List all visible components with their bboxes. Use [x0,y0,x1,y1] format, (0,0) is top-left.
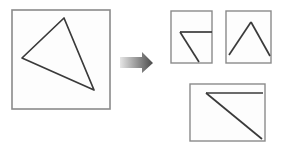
panel-one-square [171,11,212,63]
source-panel-group [12,10,110,109]
panel-two-square [226,11,271,63]
panel-one-group [171,11,212,63]
panel-three-group [190,84,265,141]
diagram-root [0,0,283,148]
panel-two-group [226,11,271,63]
diagram-canvas [0,0,283,148]
